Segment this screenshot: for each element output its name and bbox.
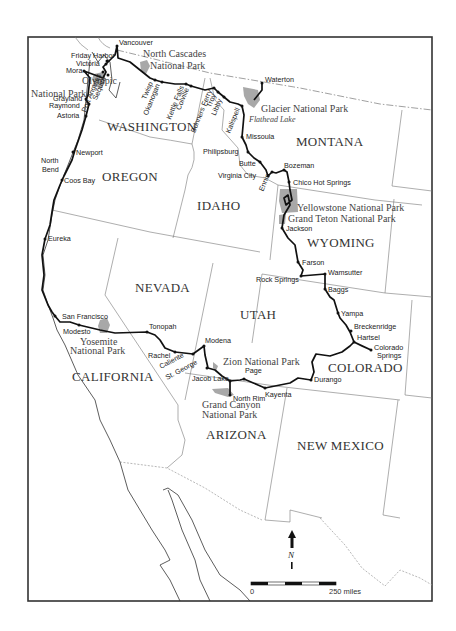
city-dot-icon	[85, 98, 88, 101]
state-label-oregon: OREGON	[102, 169, 158, 184]
city-label: Yampa	[341, 309, 363, 318]
city-coos-bay: Coos Bay	[61, 176, 96, 185]
city-north-rim: North Rim	[229, 394, 266, 404]
city-label: Eureka	[48, 234, 71, 243]
city-tonopah: Tonopah	[146, 322, 177, 334]
scale-bar: 0 250 miles	[250, 582, 361, 596]
park-label-north-cascades: National Park	[150, 60, 205, 71]
park-label-yosemite: National Park	[70, 345, 125, 356]
city-label: Mora	[66, 66, 82, 75]
city-label: Modena	[205, 336, 231, 345]
city-eureka: Eureka	[44, 234, 71, 243]
park-label-grand-teton: Grand Teton National Park	[288, 213, 396, 224]
city-dot-icon	[243, 378, 246, 381]
city-dot-icon	[174, 351, 177, 354]
city-label: Baggs	[328, 285, 349, 294]
state-label-nevada: NEVADA	[135, 280, 190, 295]
city-dot-icon	[241, 105, 244, 108]
flathead-lake-label: Flathead Lake	[248, 115, 296, 124]
city-label: Jacob Lake	[192, 374, 229, 383]
park-label-yellowstone: Yellowstone National Park	[297, 202, 404, 213]
state-label-colorado: COLORADO	[328, 360, 403, 375]
city-chico-hot-springs: Chico Hot Springs	[288, 178, 352, 187]
city-dot-icon	[213, 87, 216, 90]
north-arrow: N	[287, 530, 296, 569]
city-label: Newport	[76, 148, 103, 157]
city-label: Jackson	[286, 224, 312, 233]
city-dot-icon	[185, 83, 188, 86]
city-label: North Rim	[233, 394, 265, 403]
city-springs: Springs	[377, 351, 402, 360]
city-dot-icon	[88, 103, 91, 106]
city-kalispell: Kalispell	[223, 105, 243, 135]
city-san-francisco: San Francisco	[54, 312, 108, 321]
city-dot-icon	[297, 261, 300, 264]
city-dot-icon	[72, 151, 75, 154]
city-dot-icon	[85, 115, 88, 118]
city-jackson: Jackson	[281, 224, 313, 233]
city-missoula: Missoula	[241, 132, 275, 141]
scale-end-label: 250 miles	[329, 587, 361, 596]
city-dot-icon	[271, 171, 274, 174]
city-label: Missoula	[246, 132, 274, 141]
city-wamsutter: Wamsutter	[324, 268, 364, 277]
city-dot-icon	[154, 79, 157, 82]
city-dot-icon	[281, 227, 284, 230]
city-dot-icon	[259, 161, 262, 164]
city-label: Coos Bay	[64, 176, 96, 185]
city-dot-icon	[192, 353, 195, 356]
city-label: Chico Hot Springs	[293, 178, 351, 187]
city-label: Philipsburg	[203, 147, 239, 156]
city-waterton: Waterton	[261, 75, 294, 85]
city-label: Rachel	[148, 351, 171, 360]
city-label: Ennis	[257, 172, 272, 192]
park-label-north-cascades: North Cascades	[143, 48, 206, 59]
city-dot-icon	[310, 379, 313, 382]
city-label: Modesto	[63, 327, 91, 336]
city-label: Page	[245, 366, 262, 375]
city-dot-icon	[229, 380, 232, 383]
city-label: Springs	[377, 351, 402, 360]
city-dot-icon	[337, 312, 340, 315]
city-label: Tonopah	[149, 322, 177, 331]
city-philipsburg: Philipsburg	[203, 147, 250, 156]
city-label: Bend	[42, 165, 59, 174]
city-bend: Bend	[42, 165, 59, 174]
city-bozeman: Bozeman	[283, 161, 315, 172]
city-dot-icon	[229, 394, 232, 397]
city-newport: Newport	[72, 148, 103, 157]
city-label: Kalispell	[223, 106, 242, 135]
city-dot-icon	[190, 85, 193, 88]
city-rock-springs: Rock Springs	[256, 275, 303, 285]
city-label: Virginia City	[218, 171, 257, 180]
city-dot-icon	[241, 136, 244, 139]
glacier-park-area	[243, 87, 260, 108]
city-breckenridge: Breckenridge	[350, 322, 397, 333]
city-label: Breckenridge	[354, 322, 396, 331]
city-baggs: Baggs	[324, 285, 349, 294]
city-dot-icon	[247, 151, 250, 154]
city-label: Durango	[314, 375, 342, 384]
city-north: North	[41, 156, 59, 165]
city-dot-icon	[102, 71, 105, 74]
state-label-montana: MONTANA	[296, 134, 364, 149]
city-dot-icon	[324, 273, 327, 276]
city-durango: Durango	[310, 375, 342, 384]
state-label-wyoming: WYOMING	[307, 235, 375, 250]
city-dot-icon	[324, 288, 327, 291]
city-label: San Francisco	[62, 312, 108, 321]
city-dot-icon	[44, 238, 47, 241]
route-map: WASHINGTONOREGONIDAHOMONTANAWYOMINGNEVAD…	[0, 0, 456, 631]
state-label-arizona: ARIZONA	[206, 427, 267, 442]
city-dot-icon	[288, 181, 291, 184]
park-label-grand-canyon: National Park	[202, 409, 257, 420]
city-dot-icon	[217, 91, 220, 94]
city-label: Wamsutter	[328, 268, 363, 277]
state-label-utah: UTAH	[240, 307, 276, 322]
city-label: Raymond	[49, 101, 80, 110]
city-label: Butte	[239, 159, 256, 168]
city-modesto: Modesto	[63, 324, 91, 337]
city-label: Bozeman	[284, 161, 314, 170]
city-dot-icon	[54, 315, 57, 318]
city-label: Rock Springs	[256, 275, 299, 284]
